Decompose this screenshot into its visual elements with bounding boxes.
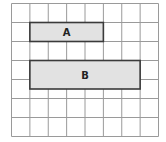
rectangle-a: A (30, 23, 104, 42)
rectangle-a-label: A (63, 27, 71, 38)
grid-diagram: AB (0, 0, 166, 142)
rectangle-b-label: B (81, 70, 89, 81)
rectangle-b: B (30, 61, 140, 90)
